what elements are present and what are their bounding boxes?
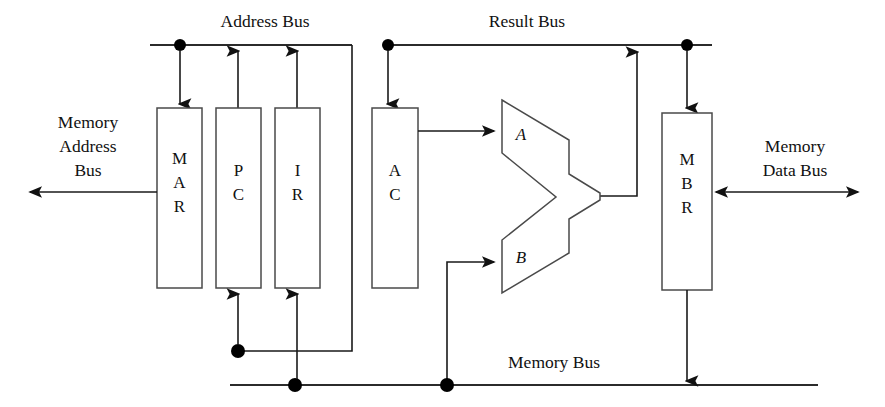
address-bus-return-junction-dot bbox=[231, 344, 245, 358]
alu-input-b-label: B bbox=[516, 248, 527, 267]
memory-data-bus-group: Memory Data Bus bbox=[716, 136, 858, 192]
address-bus-junction-dot bbox=[174, 39, 186, 51]
register-pc[interactable]: P C bbox=[216, 108, 261, 288]
result-bus-left-junction-dot bbox=[382, 39, 394, 51]
mbr-letter-2: B bbox=[681, 174, 692, 193]
ir-letter-1: I bbox=[295, 161, 301, 180]
result-bus-right-junction-dot bbox=[681, 39, 693, 51]
mbr-letter-1: M bbox=[679, 150, 694, 169]
alu-output-to-result-bus-arrow bbox=[600, 52, 637, 196]
memory-bus-group: Memory Bus bbox=[230, 290, 818, 392]
address-bus-label: Address Bus bbox=[221, 11, 310, 31]
register-mar[interactable]: M A R bbox=[157, 108, 202, 288]
memory-bus-to-alu-b-arrow bbox=[447, 262, 494, 385]
memory-bus-label: Memory Bus bbox=[508, 352, 600, 372]
ac-letter-2: C bbox=[389, 185, 400, 204]
ir-letter-2: R bbox=[292, 185, 304, 204]
mar-letter-3: R bbox=[174, 197, 186, 216]
memory-address-bus-label-line2: Address bbox=[59, 136, 117, 156]
register-mbr[interactable]: M B R bbox=[662, 113, 712, 290]
result-bus-label: Result Bus bbox=[489, 11, 566, 31]
register-ir[interactable]: I R bbox=[275, 108, 320, 288]
pc-letter-1: P bbox=[234, 161, 243, 180]
ac-letter-1: A bbox=[389, 161, 402, 180]
pc-letter-2: C bbox=[233, 185, 244, 204]
memory-address-bus-group: Memory Address Bus bbox=[30, 112, 157, 192]
mar-letter-2: A bbox=[173, 173, 186, 192]
alu-input-a-label: A bbox=[515, 125, 527, 144]
memory-data-bus-label-line1: Memory bbox=[765, 136, 826, 156]
diagram-canvas: Address Bus Result Bus M A R P C I R A C bbox=[0, 0, 885, 407]
memory-data-bus-label-line2: Data Bus bbox=[763, 160, 828, 180]
cpu-bus-diagram: Address Bus Result Bus M A R P C I R A C bbox=[0, 0, 885, 407]
alu-unit[interactable]: A B bbox=[502, 100, 600, 293]
mbr-letter-3: R bbox=[681, 198, 693, 217]
mar-letter-1: M bbox=[172, 149, 187, 168]
memory-address-bus-label-line1: Memory bbox=[58, 112, 119, 132]
memory-address-bus-label-line3: Bus bbox=[74, 160, 101, 180]
memory-bus-junction-dot-right bbox=[440, 378, 454, 392]
register-ac[interactable]: A C bbox=[372, 108, 418, 288]
memory-bus-junction-dot-left bbox=[288, 378, 302, 392]
